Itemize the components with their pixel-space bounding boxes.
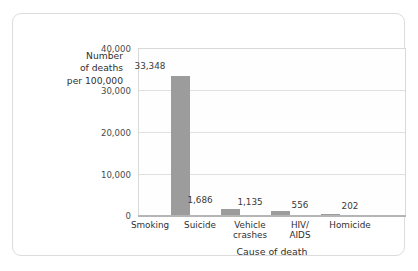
x-tick-label-homicide: Homicide [315, 220, 385, 230]
y-tick-label-40000: 40,000 [79, 45, 131, 54]
bar-value-smoking: 33,348 [120, 62, 180, 71]
plot-area [138, 48, 406, 216]
y-tick-label-20000: 20,000 [79, 129, 131, 138]
x-tick-homicide-line-1: Homicide [315, 220, 385, 230]
x-axis-title: Cause of death [138, 246, 406, 257]
x-axis-line [138, 215, 406, 217]
y-tick-label-30000: 30,000 [79, 87, 131, 96]
chart-card: Number of deaths per 100,000 40,000 30,0… [12, 13, 405, 256]
y-axis-title: Number of deaths per 100,000 [31, 50, 123, 87]
y-axis-title-line-2: of deaths [31, 62, 123, 74]
x-tick-hiv-line-2: AIDS [265, 230, 335, 240]
bar-value-homicide: 202 [320, 202, 380, 211]
y-tick-label-10000: 10,000 [79, 171, 131, 180]
